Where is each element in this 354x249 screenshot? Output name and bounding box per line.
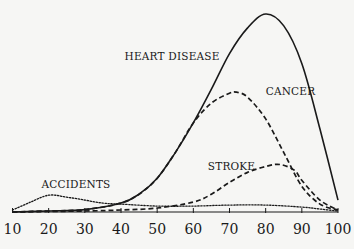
x-tick-label: 10 [4, 221, 22, 237]
x-tick-label: 30 [76, 221, 94, 237]
series-labels: HEART DISEASECANCERSTROKEACCIDENTS [40, 50, 316, 191]
label-accidents: ACCIDENTS [40, 178, 110, 190]
x-tick-label: 20 [40, 221, 58, 237]
label-heart-disease: HEART DISEASE [125, 50, 220, 62]
x-tick-label: 70 [221, 221, 239, 237]
x-tick-label: 90 [293, 221, 311, 237]
curve-cancer [13, 92, 339, 212]
label-cancer: CANCER [266, 85, 317, 97]
mortality-chart: 102030405060708090100 HEART DISEASECANCE… [0, 0, 354, 249]
x-tick-label: 80 [257, 221, 275, 237]
curve-accidents [13, 195, 339, 211]
x-tick-label: 100 [325, 221, 352, 237]
label-stroke: STROKE [208, 160, 255, 172]
x-tick-label: 50 [148, 221, 166, 237]
x-tick-label: 60 [184, 221, 202, 237]
x-tick-label: 40 [112, 221, 130, 237]
